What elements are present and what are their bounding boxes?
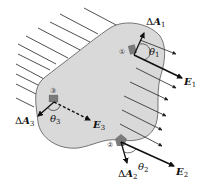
angle-2-label: θ2 bbox=[138, 161, 149, 174]
element-2-label: ② bbox=[107, 141, 113, 149]
element-1-label: ① bbox=[119, 48, 125, 56]
area-element-2: ② ΔA2 θ2 E2 bbox=[107, 134, 188, 181]
field-vector-2-label: E2 bbox=[175, 166, 188, 179]
flux-diagram: ① ΔΔAA1 θ1 E1 ③ ΔA3 θ3 E3 ② ΔA2 θ2 E2 bbox=[0, 0, 204, 189]
element-3-label: ③ bbox=[50, 87, 56, 95]
area-vector-3-label: ΔA3 bbox=[15, 115, 34, 128]
field-vector-1-label: E1 bbox=[183, 76, 196, 89]
area-vector-2-label: ΔA2 bbox=[118, 168, 137, 181]
